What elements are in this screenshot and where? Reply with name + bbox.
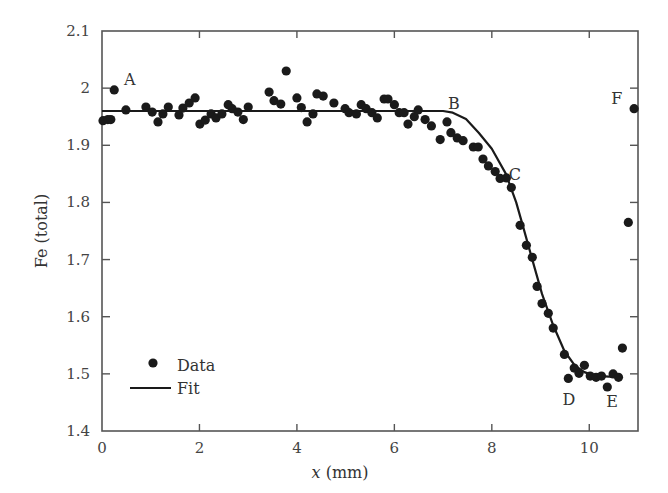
data-point bbox=[329, 98, 338, 107]
x-tick-label: 8 bbox=[487, 439, 497, 457]
data-point bbox=[148, 108, 157, 117]
x-tick-label: 0 bbox=[97, 439, 107, 457]
data-point bbox=[560, 350, 569, 359]
data-point bbox=[191, 93, 200, 102]
data-point bbox=[630, 104, 639, 113]
data-point bbox=[414, 105, 423, 114]
y-tick-label: 1.8 bbox=[66, 193, 90, 211]
y-axis-ticks: 1.41.51.61.71.81.922.1 bbox=[66, 22, 638, 440]
fe-total-chart: 0246810 1.41.51.61.71.81.922.1 ABCDEF Da… bbox=[0, 0, 668, 493]
y-tick-label: 2.1 bbox=[66, 22, 90, 40]
data-point bbox=[533, 282, 542, 291]
fit-line bbox=[102, 111, 619, 377]
data-point bbox=[352, 109, 361, 118]
data-point bbox=[580, 361, 589, 370]
y-tick-label: 1.6 bbox=[66, 308, 90, 326]
annotation-a: A bbox=[123, 70, 136, 89]
x-tick-label: 6 bbox=[390, 439, 400, 457]
data-point bbox=[153, 117, 162, 126]
y-tick-label: 2 bbox=[80, 79, 90, 97]
data-point bbox=[106, 115, 115, 124]
data-point bbox=[436, 135, 445, 144]
data-point bbox=[522, 241, 531, 250]
data-point bbox=[403, 120, 412, 129]
data-point bbox=[574, 369, 583, 378]
data-point bbox=[164, 102, 173, 111]
x-axis-title: x (mm) bbox=[312, 463, 369, 482]
data-points bbox=[98, 66, 638, 391]
y-axis-title: Fe (total) bbox=[32, 194, 51, 268]
y-tick-label: 1.4 bbox=[66, 422, 90, 440]
data-point bbox=[427, 121, 436, 130]
data-point bbox=[373, 113, 382, 122]
data-point bbox=[390, 100, 399, 109]
legend-data-label: Data bbox=[177, 356, 216, 375]
data-point bbox=[507, 183, 516, 192]
data-point bbox=[303, 117, 312, 126]
legend: Data Fit bbox=[130, 356, 216, 398]
x-axis-variable: x bbox=[312, 463, 321, 482]
legend-fit-label: Fit bbox=[177, 379, 200, 398]
data-point bbox=[474, 142, 483, 151]
data-point bbox=[624, 218, 633, 227]
data-point bbox=[516, 221, 525, 230]
data-point bbox=[276, 100, 285, 109]
annotation-c: C bbox=[509, 165, 521, 184]
data-point bbox=[244, 102, 253, 111]
fit-curve bbox=[102, 111, 619, 377]
x-tick-label: 10 bbox=[580, 439, 599, 457]
annotation-b: B bbox=[448, 94, 460, 113]
annotation-d: D bbox=[562, 390, 575, 409]
y-tick-label: 1.9 bbox=[66, 136, 90, 154]
x-tick-label: 2 bbox=[195, 439, 205, 457]
data-point bbox=[265, 88, 274, 97]
data-point bbox=[121, 105, 130, 114]
data-point bbox=[442, 117, 451, 126]
data-point bbox=[549, 324, 558, 333]
data-point bbox=[603, 382, 612, 391]
data-point bbox=[217, 109, 226, 118]
annotation-f: F bbox=[611, 89, 622, 108]
y-tick-label: 1.5 bbox=[66, 365, 90, 383]
data-point bbox=[292, 93, 301, 102]
x-axis-unit: (mm) bbox=[321, 463, 369, 482]
x-tick-label: 4 bbox=[292, 439, 302, 457]
data-point bbox=[537, 299, 546, 308]
annotation-e: E bbox=[606, 392, 618, 411]
data-point bbox=[597, 372, 606, 381]
data-point bbox=[614, 373, 623, 382]
data-point bbox=[110, 85, 119, 94]
data-point bbox=[282, 66, 291, 75]
data-point bbox=[528, 253, 537, 262]
data-point bbox=[319, 92, 328, 101]
data-point bbox=[544, 309, 553, 318]
data-point bbox=[233, 108, 242, 117]
data-point bbox=[564, 374, 573, 383]
data-point bbox=[297, 103, 306, 112]
legend-data-marker bbox=[148, 358, 157, 367]
data-point bbox=[459, 136, 468, 145]
data-point bbox=[239, 115, 248, 124]
data-point bbox=[308, 109, 317, 118]
data-point bbox=[618, 344, 627, 353]
y-tick-label: 1.7 bbox=[66, 251, 90, 269]
data-point bbox=[400, 108, 409, 117]
